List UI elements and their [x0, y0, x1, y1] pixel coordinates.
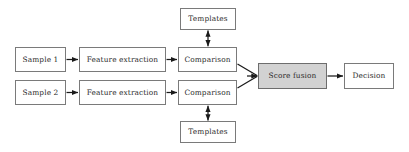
node-templates-top: Templates [180, 8, 236, 30]
node-sample1: Sample 1 [15, 47, 66, 72]
connector-comparison1-to-score-fusion [238, 64, 258, 76]
node-templates-top-label: Templates [188, 15, 227, 22]
node-feature-extraction-1-label: Feature extraction [87, 56, 158, 63]
node-sample1-label: Sample 1 [23, 56, 59, 63]
node-comparison-2: Comparison [178, 80, 237, 105]
node-score-fusion-label: Score fusion [269, 72, 317, 79]
node-feature-extraction-2-label: Feature extraction [87, 89, 158, 96]
node-templates-bottom: Templates [180, 121, 236, 143]
node-decision: Decision [344, 63, 394, 89]
flowchart-diagram: Sample 1 Sample 2 Feature extraction Fea… [0, 0, 409, 152]
node-decision-label: Decision [353, 72, 386, 79]
node-comparison-1-label: Comparison [184, 56, 230, 63]
node-sample2-label: Sample 2 [23, 89, 59, 96]
node-score-fusion: Score fusion [258, 63, 327, 89]
node-templates-bottom-label: Templates [188, 128, 227, 135]
node-feature-extraction-1: Feature extraction [79, 47, 166, 72]
node-comparison-2-label: Comparison [184, 89, 230, 96]
node-sample2: Sample 2 [15, 80, 66, 105]
node-feature-extraction-2: Feature extraction [79, 80, 166, 105]
node-comparison-1: Comparison [178, 47, 237, 72]
connector-comparison2-to-score-fusion [238, 77, 258, 89]
